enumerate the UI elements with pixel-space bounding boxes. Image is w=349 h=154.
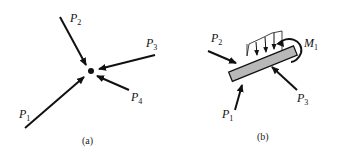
force-p4-arrow (97, 76, 129, 90)
force-p3-arrow-b (272, 67, 297, 90)
panel-a: P1 P2 P3 P4 (a) (18, 11, 157, 147)
force-p2-arrow-b (208, 51, 236, 63)
rigid-bar (229, 46, 298, 81)
panel-b: P2 M1 P1 P3 (b) (208, 31, 318, 143)
particle-point (88, 68, 94, 74)
label-p3-b: P3 (296, 91, 308, 107)
label-p2-b: P2 (210, 31, 222, 47)
caption-b: (b) (257, 131, 269, 143)
label-p2: P2 (69, 11, 81, 27)
label-p3: P3 (145, 36, 157, 52)
force-p1-arrow (25, 77, 84, 128)
label-p4: P4 (130, 90, 142, 106)
force-p1-arrow-b (235, 85, 242, 110)
label-m1: M1 (303, 36, 318, 52)
label-p1-b: P1 (221, 107, 233, 123)
force-diagram: P1 P2 P3 P4 (a) P2 M1 P1 P3 (b) (0, 0, 349, 154)
caption-a: (a) (82, 135, 93, 147)
label-p1: P1 (18, 107, 30, 123)
force-p3-arrow (99, 55, 155, 69)
